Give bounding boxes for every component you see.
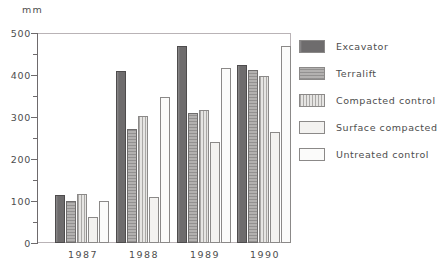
legend-item-untreated-control: Untreated control — [299, 142, 439, 167]
legend-label: Untreated control — [336, 149, 429, 160]
bar-groups — [38, 33, 291, 243]
bar-surface-compacted-1987 — [88, 217, 98, 243]
bar-compacted-control-1989 — [199, 110, 209, 243]
legend-item-compacted-control: Compacted control — [299, 88, 439, 113]
legend-swatch-compacted-control — [299, 94, 325, 107]
bar-terralift-1988 — [127, 129, 137, 243]
bar-untreated-control-1988 — [160, 97, 170, 243]
y-tick-major — [31, 159, 37, 160]
bar-compacted-control-1988 — [138, 116, 148, 243]
legend-swatch-untreated-control — [299, 148, 325, 161]
legend-label: Compacted control — [336, 95, 436, 106]
legend-item-terralift: Terralift — [299, 61, 439, 86]
y-tick-minor — [33, 54, 37, 55]
y-tick-label: 400 — [3, 70, 31, 81]
y-tick-major — [31, 243, 37, 244]
y-tick-major — [31, 201, 37, 202]
legend-swatch-excavator — [299, 40, 325, 53]
x-axis-label-1987: 1987 — [53, 249, 113, 260]
bar-surface-compacted-1988 — [149, 197, 159, 243]
bar-excavator-1988 — [116, 71, 126, 243]
bar-terralift-1987 — [66, 201, 76, 243]
bar-untreated-control-1987 — [99, 201, 109, 243]
bar-terralift-1990 — [248, 70, 258, 243]
bar-surface-compacted-1990 — [270, 132, 280, 243]
bar-untreated-control-1989 — [221, 68, 231, 243]
bar-group-1988 — [116, 33, 170, 243]
bar-group-1987 — [55, 33, 109, 243]
legend-label: Terralift — [336, 68, 377, 79]
bar-excavator-1990 — [237, 65, 247, 244]
legend-swatch-surface-compacted — [299, 121, 325, 134]
x-axis-label-1988: 1988 — [114, 249, 174, 260]
bar-chart-figure: mm 0100200300400500 1987198819891990 Exc… — [0, 0, 441, 275]
legend-swatch-terralift — [299, 67, 325, 80]
bar-terralift-1989 — [188, 113, 198, 243]
y-tick-minor — [33, 96, 37, 97]
bar-untreated-control-1990 — [281, 46, 291, 243]
x-axis-label-1989: 1989 — [175, 249, 235, 260]
chart-legend: ExcavatorTerraliftCompacted controlSurfa… — [299, 34, 439, 169]
y-tick-minor — [33, 180, 37, 181]
y-tick-minor — [33, 222, 37, 223]
x-axis-label-1990: 1990 — [235, 249, 295, 260]
y-tick-label: 500 — [3, 28, 31, 39]
y-tick-major — [31, 33, 37, 34]
bar-excavator-1987 — [55, 195, 65, 243]
bar-excavator-1989 — [177, 46, 187, 243]
y-tick-minor — [33, 138, 37, 139]
y-tick-label: 300 — [3, 112, 31, 123]
bar-group-1990 — [237, 33, 291, 243]
legend-item-surface-compacted: Surface compacted — [299, 115, 439, 140]
y-tick-label: 100 — [3, 196, 31, 207]
legend-label: Surface compacted — [336, 122, 438, 133]
y-tick-label: 0 — [3, 238, 31, 249]
legend-item-excavator: Excavator — [299, 34, 439, 59]
bar-compacted-control-1987 — [77, 194, 87, 243]
y-tick-major — [31, 75, 37, 76]
y-tick-label: 200 — [3, 154, 31, 165]
y-tick-major — [31, 117, 37, 118]
bar-surface-compacted-1989 — [210, 142, 220, 243]
bar-group-1989 — [177, 33, 231, 243]
y-axis-unit-label: mm — [22, 4, 43, 15]
legend-label: Excavator — [336, 41, 388, 52]
bar-compacted-control-1990 — [259, 76, 269, 243]
